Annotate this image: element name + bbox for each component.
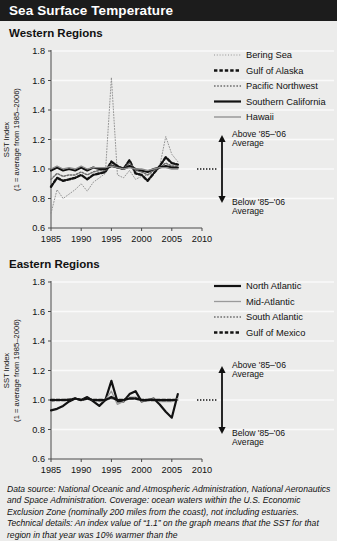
svg-text:1.2: 1.2: [32, 366, 45, 376]
svg-text:2005: 2005: [162, 465, 182, 475]
figure-title: Sea Surface Temperature: [9, 3, 173, 18]
svg-text:1.4: 1.4: [32, 336, 45, 346]
svg-text:Average: Average: [232, 437, 264, 447]
svg-text:1.6: 1.6: [32, 76, 45, 86]
svg-text:1.8: 1.8: [32, 46, 45, 56]
svg-text:SST Index: SST Index: [2, 122, 11, 158]
svg-text:2000: 2000: [131, 465, 151, 475]
svg-text:Hawaii: Hawaii: [246, 112, 274, 122]
svg-text:1985: 1985: [41, 234, 61, 244]
svg-text:1.0: 1.0: [32, 395, 45, 405]
svg-text:0.6: 0.6: [32, 223, 45, 233]
svg-text:(1 = average from 1985–2006): (1 = average from 1985–2006): [12, 88, 21, 191]
svg-text:Average: Average: [232, 138, 264, 148]
svg-text:1.2: 1.2: [32, 135, 45, 145]
svg-text:SST Index: SST Index: [2, 353, 11, 389]
svg-text:1.6: 1.6: [32, 307, 45, 317]
svg-text:1995: 1995: [101, 234, 121, 244]
svg-text:1.0: 1.0: [32, 164, 45, 174]
svg-text:2010: 2010: [192, 465, 212, 475]
svg-text:Bering Sea: Bering Sea: [246, 50, 293, 60]
svg-text:1.4: 1.4: [32, 105, 45, 115]
svg-text:1.8: 1.8: [32, 277, 45, 287]
svg-text:1995: 1995: [101, 465, 121, 475]
chart-western-regions: 0.60.81.01.21.41.61.81985199019952000200…: [0, 45, 337, 250]
chart-eastern-regions: 0.60.81.01.21.41.61.81985199019952000200…: [0, 276, 337, 481]
svg-text:North Atlantic: North Atlantic: [246, 281, 302, 291]
svg-text:Pacific Northwest: Pacific Northwest: [246, 81, 318, 91]
svg-text:0.8: 0.8: [32, 194, 45, 204]
svg-text:Average: Average: [232, 206, 264, 216]
svg-text:(1 = average from 1985–2006): (1 = average from 1985–2006): [12, 319, 21, 422]
figure-footnote: Data source: National Oceanic and Atmosp…: [7, 484, 331, 541]
svg-text:Gulf of Alaska: Gulf of Alaska: [246, 66, 304, 76]
chart-western-regions-canvas: 0.60.81.01.21.41.61.81985199019952000200…: [0, 45, 337, 250]
svg-text:0.8: 0.8: [32, 425, 45, 435]
svg-text:Mid-Atlantic: Mid-Atlantic: [246, 297, 295, 307]
svg-text:2010: 2010: [192, 234, 212, 244]
svg-text:0.6: 0.6: [32, 454, 45, 464]
svg-text:Southern California: Southern California: [246, 97, 326, 107]
svg-text:Gulf of Mexico: Gulf of Mexico: [246, 328, 305, 338]
svg-text:1985: 1985: [41, 465, 61, 475]
svg-text:Average: Average: [232, 369, 264, 379]
svg-text:2005: 2005: [162, 234, 182, 244]
figure-title-bar: Sea Surface Temperature: [0, 0, 337, 21]
svg-text:1990: 1990: [71, 465, 91, 475]
section-heading-western: Western Regions: [9, 27, 103, 39]
svg-text:1990: 1990: [71, 234, 91, 244]
chart-eastern-regions-canvas: 0.60.81.01.21.41.61.81985199019952000200…: [0, 276, 337, 481]
svg-text:2000: 2000: [131, 234, 151, 244]
svg-text:South Atlantic: South Atlantic: [246, 312, 303, 322]
section-heading-eastern: Eastern Regions: [9, 258, 100, 270]
